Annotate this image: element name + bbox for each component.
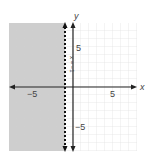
x-tick-neg5: −5 xyxy=(27,89,37,99)
inequality-graph: x y −5 5 5 −5 x = −1 xyxy=(0,0,151,159)
y-tick-pos5: 5 xyxy=(76,43,81,53)
boundary-label: x = −1 xyxy=(69,56,75,73)
y-tick-neg5: −5 xyxy=(75,122,85,132)
x-axis-label: x xyxy=(139,82,145,92)
x-tick-pos5: 5 xyxy=(110,89,115,99)
y-axis-label: y xyxy=(73,11,79,21)
